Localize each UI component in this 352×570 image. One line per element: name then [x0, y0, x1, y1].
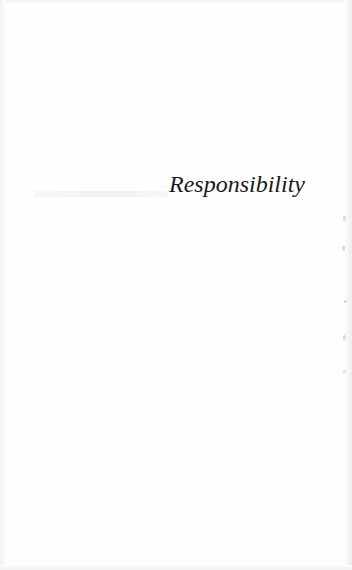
show-through-band — [34, 191, 168, 197]
scan-edge-right — [344, 0, 352, 570]
half-title: Responsibility — [169, 170, 305, 198]
scan-edge-left — [0, 0, 6, 570]
scan-mark — [342, 246, 345, 251]
scan-mark — [343, 216, 346, 221]
scan-mark — [344, 300, 347, 303]
scan-mark — [343, 335, 346, 340]
scan-edge-top — [0, 0, 352, 4]
book-page: Responsibility — [0, 0, 352, 570]
scan-mark — [343, 370, 346, 373]
scan-edge-bottom — [0, 565, 352, 570]
